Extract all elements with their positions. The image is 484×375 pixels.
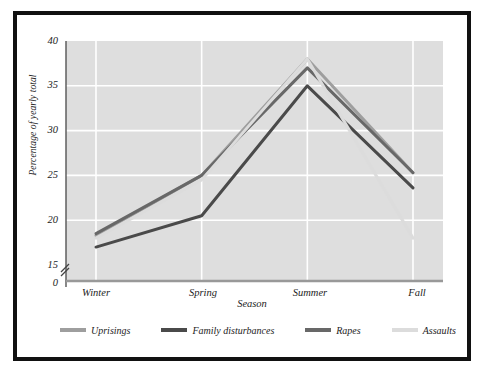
y-tick-label-35: 35 bbox=[28, 79, 58, 90]
x-axis-title: Season bbox=[60, 298, 444, 309]
y-tick-label-25: 25 bbox=[28, 169, 58, 180]
legend-label-rapes: Rapes bbox=[336, 325, 360, 336]
legend-label-uprisings: Uprisings bbox=[91, 325, 130, 336]
legend-swatch-uprisings bbox=[60, 328, 86, 332]
y-tick-label-30: 30 bbox=[28, 124, 58, 135]
figure-page: Percentage of yearly total 40 35 30 25 2… bbox=[0, 0, 484, 375]
legend-swatch-rapes bbox=[305, 328, 331, 332]
legend-label-assaults: Assaults bbox=[423, 325, 456, 336]
x-tick-label-spring: Spring bbox=[158, 287, 248, 298]
x-tick-label-summer: Summer bbox=[265, 287, 355, 298]
series-line-uprisings bbox=[96, 59, 413, 236]
legend-label-family-disturbances: Family disturbances bbox=[192, 325, 274, 336]
series-line-family-disturbances bbox=[96, 86, 413, 247]
series-line-rapes bbox=[96, 68, 413, 234]
y-axis-break-symbol bbox=[61, 264, 69, 276]
legend-item-family-disturbances[interactable]: Family disturbances bbox=[161, 325, 274, 336]
legend-item-uprisings[interactable]: Uprisings bbox=[60, 325, 130, 336]
legend-swatch-family-disturbances bbox=[161, 328, 187, 332]
series-line-assaults bbox=[96, 59, 413, 238]
chart-legend: Uprisings Family disturbances Rapes Assa… bbox=[60, 322, 456, 338]
x-tick-label-winter: Winter bbox=[51, 287, 141, 298]
y-tick-label-40: 40 bbox=[28, 35, 58, 46]
line-chart: Percentage of yearly total 40 35 30 25 2… bbox=[0, 0, 484, 375]
y-tick-label-15: 15 bbox=[28, 259, 58, 270]
legend-item-assaults[interactable]: Assaults bbox=[392, 325, 456, 336]
y-tick-label-20: 20 bbox=[28, 214, 58, 225]
plot-background bbox=[66, 41, 443, 281]
legend-item-rapes[interactable]: Rapes bbox=[305, 325, 360, 336]
x-tick-label-fall: Fall bbox=[372, 287, 462, 298]
plot-area bbox=[0, 0, 484, 375]
legend-swatch-assaults bbox=[392, 328, 418, 332]
